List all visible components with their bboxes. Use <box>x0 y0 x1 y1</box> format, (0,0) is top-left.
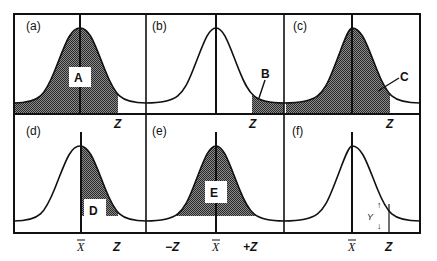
panel-a-label: (a) <box>26 19 41 33</box>
panel-d-z-label: Z <box>112 240 121 254</box>
arrow-down-icon: ↓ <box>377 221 382 231</box>
svg-text:X: X <box>347 240 356 254</box>
panel-e-plus-z-label: +Z <box>243 240 258 254</box>
svg-text:X: X <box>211 240 220 254</box>
area-b-label: B <box>261 67 270 81</box>
panel-e-minus-z-label: −Z <box>165 240 180 254</box>
panel-d-label: (d) <box>26 124 41 138</box>
arrow-up-icon: ↑ <box>377 200 382 210</box>
area-d-label: D <box>89 204 98 218</box>
panel-f-ordinate-label: Y <box>367 212 374 222</box>
panel-b-z-label: Z <box>248 117 257 131</box>
panel-e-label: (e) <box>152 124 167 138</box>
panel-c-label: (c) <box>293 19 307 33</box>
panel-e-mean-label: X <box>211 240 220 254</box>
panel-f-z-label: Z <box>384 240 393 254</box>
svg-text:X: X <box>76 240 85 254</box>
area-e-label: E <box>210 186 218 200</box>
area-c-label: C <box>400 70 409 84</box>
panel-f-mean-label: X <box>347 240 356 254</box>
panel-b-label: (b) <box>152 19 167 33</box>
panel-c-z-label: Z <box>385 117 394 131</box>
panel-d-mean-label: X <box>76 240 85 254</box>
area-a-label: A <box>74 71 83 85</box>
panel-f-label: (f) <box>292 124 303 138</box>
panel-a-z-label: Z <box>113 117 122 131</box>
normal-distribution-figure: A (a) Z B (b) Z C (c) Z D (d) X Z <box>0 0 437 261</box>
panel-d: D (d) X Z <box>14 124 146 254</box>
panel-e: E (e) −Z X +Z <box>146 124 284 254</box>
panel-f: Y ↑ ↓ (f) X Z <box>284 124 420 254</box>
